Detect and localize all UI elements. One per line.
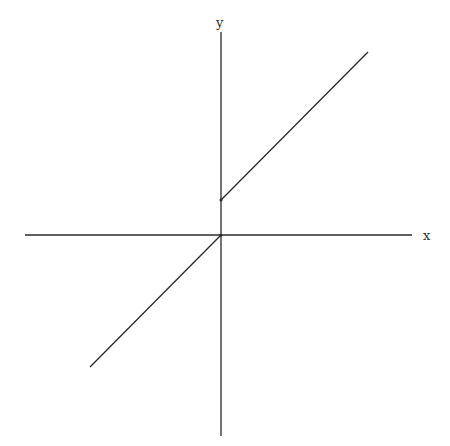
y-axis-label: y <box>215 15 224 30</box>
lower-branch-line <box>90 235 221 367</box>
upper-branch-start-point <box>220 199 223 202</box>
origin-point <box>220 234 223 237</box>
graph-canvas: y x <box>0 0 450 446</box>
upper-branch-line <box>221 52 368 200</box>
x-axis-label: x <box>423 228 431 243</box>
